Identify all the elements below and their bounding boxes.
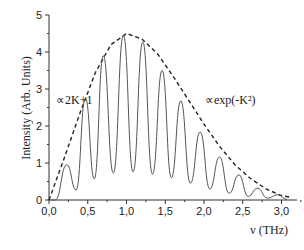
y-tick-label: 0 [36, 194, 42, 206]
y-tick-label: 2 [36, 120, 42, 132]
annotation-gaussian: ∝exp(-K²) [205, 93, 256, 107]
x-tick-label: 0,0 [41, 205, 56, 217]
annotation-linear: ∝2K+1 [56, 93, 92, 107]
x-tick-label: 1,0 [119, 205, 134, 217]
y-tick-label: 5 [36, 9, 42, 21]
y-tick-label: 3 [36, 83, 42, 95]
intensity-chart: 0,00,51,01,52,02,53,0 012345 ∝2K+1 ∝exp(… [0, 0, 304, 250]
spectrum-line [51, 35, 287, 200]
y-tick-label: 1 [36, 157, 42, 169]
y-axis-ticks: 012345 [36, 9, 49, 206]
envelope-dashed-line [49, 34, 289, 201]
x-tick-label: 1,5 [158, 205, 173, 217]
y-axis-title: Intensity (Arb. Units) [19, 56, 33, 160]
x-tick-label: 2,5 [235, 205, 250, 217]
x-axis-ticks: 0,00,51,01,52,02,53,0 [41, 200, 301, 217]
x-tick-label: 0,5 [80, 205, 95, 217]
y-tick-label: 4 [36, 46, 42, 58]
x-tick-label: 2,0 [196, 205, 211, 217]
x-axis-title: ν (THz) [250, 223, 288, 237]
x-tick-label: 3,0 [274, 205, 289, 217]
